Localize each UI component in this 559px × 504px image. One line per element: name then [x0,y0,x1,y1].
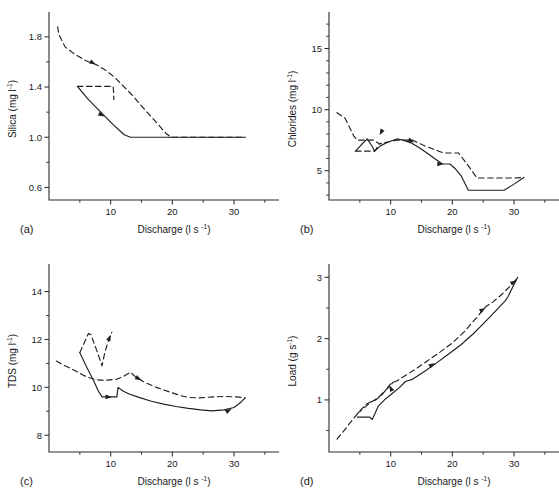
x-tick-label: 20 [167,458,178,469]
x-axis-title: Discharge (l s -1) [417,223,490,235]
series-solid [77,86,245,137]
svg-text:Chlorides (mg l-1): Chlorides (mg l-1) [286,71,298,147]
series-dashed [56,361,245,398]
y-axis-title: Chlorides (mg l-1) [286,71,298,147]
y-tick-label: 12 [31,334,42,345]
y-axis-ticks: 8101214 [31,286,49,441]
x-tick-label: 30 [509,206,520,217]
axis-spines [49,264,279,452]
panel-label: (c) [20,475,33,487]
panel-label: (d) [300,475,313,487]
panel-b: 51015102030Chlorides (mg l-1)Discharge (… [280,0,559,252]
x-axis-ticks: 102030 [360,200,545,217]
y-axis-ticks: 123 [317,272,329,431]
direction-arrows [378,129,444,167]
flow-direction-arrow-icon [135,375,143,382]
svg-text:Silica (mg l-1): Silica (mg l-1) [6,80,18,138]
figure-hysteresis-loops: 0.61.01.41.8102030Silica (mg l-1)Dischar… [0,0,559,504]
plot-a: 0.61.01.41.8102030Silica (mg l-1)Dischar… [0,0,279,252]
series-solid [80,353,245,411]
panel-d: 123102030Load (g s-1)Discharge (l s -1)(… [280,252,559,504]
x-tick-label: 30 [509,458,520,469]
panel-label: (b) [300,223,313,235]
y-axis-title: Silica (mg l-1) [6,80,18,138]
y-tick-label: 15 [311,43,322,54]
x-axis-ticks: 102030 [360,452,545,469]
y-tick-label: 1.8 [29,31,42,42]
svg-text:TDS (mg l-1): TDS (mg l-1) [6,334,18,388]
x-axis-title: Discharge (l s -1) [137,475,210,487]
flow-direction-arrow-icon [378,129,385,137]
series-dashed [58,27,245,137]
data-series [58,27,245,137]
y-axis-ticks: 0.61.01.41.8 [29,31,49,193]
x-axis-title: Discharge (l s -1) [417,475,490,487]
flow-direction-arrow-icon [106,395,112,400]
x-tick-label: 20 [447,206,458,217]
y-tick-label: 10 [31,382,42,393]
y-tick-label: 1 [317,394,322,405]
y-axis-title: TDS (mg l-1) [6,334,18,388]
x-tick-label: 10 [385,206,396,217]
flow-direction-arrow-icon [89,59,97,66]
x-axis-ticks: 102030 [80,452,265,469]
direction-arrows [106,334,233,414]
panel-a: 0.61.01.41.8102030Silica (mg l-1)Dischar… [0,0,279,252]
svg-text:Load (g s-1): Load (g s-1) [286,336,298,387]
x-tick-label: 20 [447,458,458,469]
x-tick-label: 10 [385,458,396,469]
x-tick-label: 30 [229,206,240,217]
x-axis-title: Discharge (l s -1) [137,223,210,235]
data-series [56,332,245,411]
plot-c: 8101214102030TDS (mg l-1)Discharge (l s … [0,252,279,504]
y-tick-label: 1.0 [29,132,42,143]
axis-spines [329,12,559,200]
series-dashed [337,113,524,178]
plot-b: 51015102030Chlorides (mg l-1)Discharge (… [280,0,559,252]
x-axis-ticks: 102030 [80,200,265,217]
y-axis-ticks: 51015 [311,24,329,195]
data-series [337,113,524,191]
y-tick-label: 8 [37,430,42,441]
panel-label: (a) [20,223,33,235]
y-tick-label: 10 [311,104,322,115]
x-tick-label: 20 [167,206,178,217]
panel-c: 8101214102030TDS (mg l-1)Discharge (l s … [0,252,279,504]
y-axis-title: Load (g s-1) [286,336,298,387]
y-tick-label: 2 [317,333,322,344]
series-solid [357,277,517,419]
y-tick-label: 14 [31,286,42,297]
x-tick-label: 10 [105,206,116,217]
series-dashed [80,332,112,366]
y-tick-label: 1.4 [29,81,42,92]
x-tick-label: 10 [105,458,116,469]
flow-direction-arrow-icon [106,334,113,342]
y-tick-label: 3 [317,272,322,283]
series-dashed [337,277,518,439]
data-series [337,277,518,439]
x-tick-label: 30 [229,458,240,469]
plot-d: 123102030Load (g s-1)Discharge (l s -1)(… [280,252,559,504]
axis-spines [49,12,279,200]
y-tick-label: 0.6 [29,182,42,193]
y-tick-label: 5 [317,165,322,176]
